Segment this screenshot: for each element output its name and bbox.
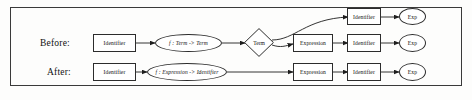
node-before-decision[interactable]: Term	[244, 28, 274, 57]
node-before-expression[interactable]: Expression	[293, 34, 333, 52]
node-before-identifier[interactable]: Identifier	[93, 34, 136, 52]
node-after-expression[interactable]: Expression	[293, 63, 333, 81]
diagram-canvas: Before: After: Identifier f : Term -> Te…	[0, 0, 472, 100]
row-label-after: After:	[47, 67, 71, 77]
node-top-exp[interactable]: Exp	[399, 8, 426, 25]
diagram-frame	[10, 7, 462, 86]
node-after-exp[interactable]: Exp	[399, 63, 426, 81]
node-before-decision-label: Term	[244, 28, 274, 57]
node-after-identifier[interactable]: Identifier	[93, 63, 136, 81]
node-top-identifier[interactable]: Identifier	[347, 8, 381, 25]
node-after-identifier2[interactable]: Identifier	[347, 63, 381, 81]
node-after-function[interactable]: f : Expression -> Identifier	[147, 63, 227, 81]
node-before-function[interactable]: f : Term -> Term	[155, 34, 222, 52]
node-mid-identifier[interactable]: Identifier	[347, 34, 381, 52]
node-mid-exp[interactable]: Exp	[399, 34, 426, 52]
row-label-before: Before:	[40, 38, 70, 48]
